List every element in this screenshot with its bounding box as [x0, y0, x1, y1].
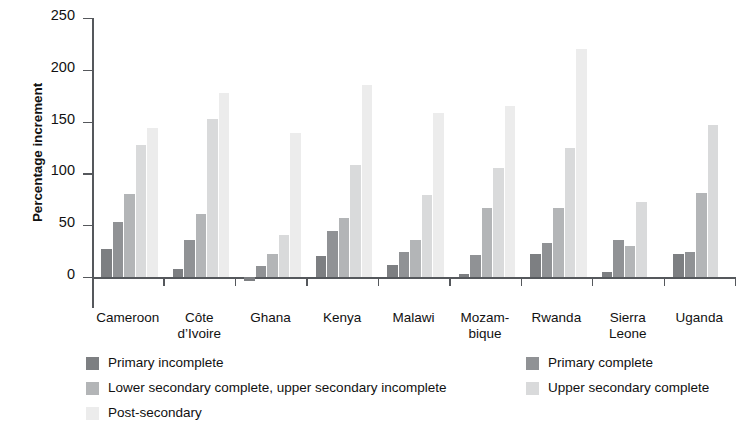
- x-category-label: Malawi: [378, 310, 449, 326]
- bar: [613, 240, 624, 277]
- bar: [207, 119, 218, 278]
- x-tick: [163, 277, 164, 286]
- y-tick-label: 50: [35, 214, 75, 230]
- bar: [256, 266, 267, 277]
- y-tick: 150: [83, 122, 92, 123]
- bar: [173, 269, 184, 277]
- bar: [339, 218, 350, 277]
- legend-item[interactable]: Primary incomplete: [86, 355, 224, 371]
- bar: [673, 254, 684, 277]
- bar: [279, 235, 290, 277]
- bar: [636, 202, 647, 277]
- x-category-label: Rwanda: [521, 310, 592, 326]
- x-category-label: Sierra Leone: [592, 310, 663, 342]
- bar: [327, 231, 338, 277]
- bar: [696, 193, 707, 277]
- y-tick: 200: [83, 70, 92, 71]
- bar: [602, 272, 613, 277]
- bar: [147, 128, 158, 277]
- bar: [505, 106, 516, 277]
- legend-label: Lower secondary complete, upper secondar…: [108, 380, 446, 396]
- bar: [399, 252, 410, 277]
- y-tick: 250: [83, 18, 92, 19]
- bar: [101, 249, 112, 277]
- legend-swatch-icon: [526, 357, 539, 370]
- x-tick: [92, 277, 93, 286]
- x-tick: [664, 277, 665, 286]
- legend-swatch-icon: [86, 382, 99, 395]
- x-category-label: Kenya: [306, 310, 377, 326]
- bar: [136, 145, 147, 277]
- bar-chart: Percentage increment 050100150200250 Cam…: [0, 0, 741, 438]
- x-tick: [378, 277, 379, 286]
- x-tick: [735, 277, 736, 286]
- bar: [482, 208, 493, 277]
- bar: [530, 254, 541, 277]
- x-category-label: Côte d’Ivoire: [163, 310, 234, 342]
- x-tick: [449, 277, 450, 286]
- y-tick: 100: [83, 173, 92, 174]
- legend-label: Post-secondary: [108, 405, 202, 421]
- chart-legend: Primary incompletePrimary completeLower …: [86, 355, 736, 430]
- legend-item[interactable]: Upper secondary complete: [526, 380, 709, 396]
- bar: [290, 133, 301, 277]
- bar: [493, 168, 504, 277]
- bar: [244, 277, 255, 281]
- bar: [685, 252, 696, 277]
- legend-label: Upper secondary complete: [548, 380, 709, 396]
- bar: [113, 222, 124, 277]
- bar: [625, 246, 636, 277]
- bar: [542, 243, 553, 277]
- legend-item[interactable]: Post-secondary: [86, 405, 202, 421]
- bar: [362, 85, 373, 277]
- bar: [553, 208, 564, 277]
- plot-area: 050100150200250: [92, 18, 735, 277]
- x-category-label: Uganda: [664, 310, 735, 326]
- bar: [196, 214, 207, 277]
- bar: [410, 240, 421, 277]
- y-tick: 50: [83, 225, 92, 226]
- y-tick: 0: [83, 277, 92, 278]
- legend-swatch-icon: [526, 382, 539, 395]
- legend-label: Primary complete: [548, 355, 653, 371]
- legend-swatch-icon: [86, 357, 99, 370]
- bar: [576, 49, 587, 277]
- y-tick-label: 150: [35, 111, 75, 127]
- bar: [219, 93, 230, 277]
- bar: [184, 240, 195, 277]
- bar: [565, 148, 576, 278]
- y-tick-label: 0: [35, 266, 75, 282]
- x-tick: [592, 277, 593, 286]
- bar: [316, 256, 327, 277]
- x-category-label: Mozam- bique: [449, 310, 520, 342]
- bar: [459, 274, 470, 277]
- legend-item[interactable]: Primary complete: [526, 355, 653, 371]
- bar: [708, 125, 719, 277]
- y-tick-label: 200: [35, 59, 75, 75]
- x-tick: [235, 277, 236, 286]
- x-axis-line: [92, 277, 735, 279]
- legend-item[interactable]: Lower secondary complete, upper secondar…: [86, 380, 446, 396]
- bar: [267, 254, 278, 277]
- bar: [387, 265, 398, 277]
- x-category-label: Ghana: [235, 310, 306, 326]
- legend-label: Primary incomplete: [108, 355, 224, 371]
- bar: [470, 255, 481, 277]
- x-tick: [306, 277, 307, 286]
- y-tick-label: 250: [35, 7, 75, 23]
- y-tick-label: 100: [35, 162, 75, 178]
- legend-swatch-icon: [86, 407, 99, 420]
- bar: [124, 194, 135, 277]
- bar: [422, 195, 433, 277]
- bar: [433, 113, 444, 277]
- y-axis-line: [92, 18, 94, 308]
- bar: [350, 165, 361, 277]
- x-category-label: Cameroon: [92, 310, 163, 326]
- x-tick: [521, 277, 522, 286]
